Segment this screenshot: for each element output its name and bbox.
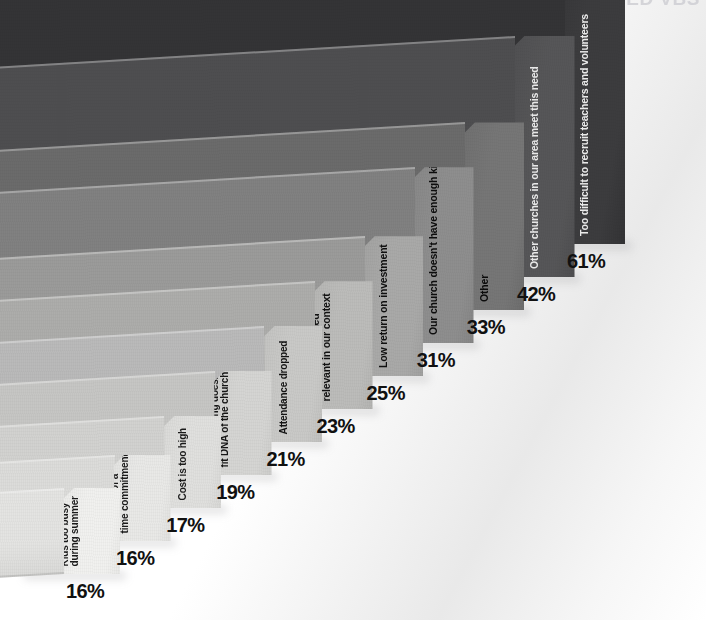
bar-slab-end-face: Attendance dropped xyxy=(264,326,322,442)
bar-value-label: 33% xyxy=(467,316,505,339)
bar-value-label: 42% xyxy=(517,283,555,306)
bar-label: Cost is too high xyxy=(178,428,188,500)
bar-slab-body xyxy=(0,488,64,583)
bar-label: Low return on investment xyxy=(378,244,389,368)
bar-value-label: 19% xyxy=(216,481,254,504)
bar-slab-end-face: Too high of atime commitment xyxy=(114,455,170,541)
bar-value-label: 23% xyxy=(317,415,355,438)
bar-label: Our church doesn't have enough kids xyxy=(428,167,439,335)
bar-slab-end-face: Programming doesn'tfit DNA of the church xyxy=(214,371,271,475)
bar-slab-end-face: Cost is too high xyxy=(164,416,221,508)
bar-label: Other xyxy=(479,275,490,302)
bar-slab-end-face: Low return on investment xyxy=(365,236,423,376)
bar-slab-end-face: Other xyxy=(465,122,524,310)
bar-value-label: 61% xyxy=(567,250,605,273)
bar-value-label: 31% xyxy=(417,349,455,372)
bar-label: Kids too busyduring summer xyxy=(64,496,80,566)
bar-slab-end-face: Kids too busyduring summer xyxy=(64,488,120,574)
bar-label: Other churches in our area meet this nee… xyxy=(529,67,540,269)
bar-slab[interactable]: Kids too busyduring summer xyxy=(0,488,120,574)
bar-value-label: 25% xyxy=(367,382,405,405)
bar-value-label: 17% xyxy=(166,514,204,537)
bar-value-label: 16% xyxy=(116,547,154,570)
bar-label: Attendance dropped xyxy=(278,340,288,434)
bar-value-label: 21% xyxy=(266,448,304,471)
bar-value-label: 16% xyxy=(66,580,104,603)
chart-canvas: WHY CHURCHES DISCONTINUED VBS Kids too b… xyxy=(0,0,706,620)
bar-slab-end-face: No longer seemedrelevant in our context xyxy=(315,281,373,409)
bar-slab-end-face: Our church doesn't have enough kids xyxy=(415,167,474,343)
bar-label: Too difficult to recruit teachers and vo… xyxy=(579,14,590,236)
